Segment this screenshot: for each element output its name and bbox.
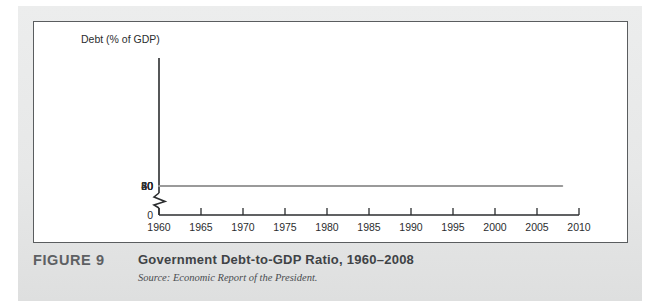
y-axis-labels: 02030405060: [141, 180, 153, 221]
y-axis-break-symbol: [154, 193, 165, 208]
y-axis-title: Debt (% of GDP): [81, 33, 160, 45]
axis-lines: [154, 58, 579, 215]
x-tick-label-2010: 2010: [567, 221, 591, 233]
figure-caption: FIGURE 9 Government Debt-to-GDP Ratio, 1…: [33, 252, 633, 296]
x-tick-label-1965: 1965: [189, 221, 213, 233]
x-tick-label-2000: 2000: [483, 221, 507, 233]
x-tick-label-1995: 1995: [441, 221, 465, 233]
debt-to-gdp-line-chart: Debt (% of GDP) 02030405060 196019651970…: [34, 22, 627, 242]
chart-panel: Debt (% of GDP) 02030405060 196019651970…: [33, 21, 628, 243]
figure-root: Debt (% of GDP) 02030405060 196019651970…: [0, 0, 670, 307]
y-tick-label-0: 0: [147, 209, 153, 221]
x-tick-label-1980: 1980: [315, 221, 339, 233]
figure-source-note: Source: Economic Report of the President…: [138, 272, 317, 283]
x-tick-label-1975: 1975: [273, 221, 297, 233]
y-tick-label-60: 60: [141, 180, 153, 192]
figure-number-label: FIGURE 9: [33, 252, 105, 268]
x-axis-labels: 1960196519701975198019851990199520002005…: [147, 221, 591, 233]
x-tick-label-1960: 1960: [147, 221, 171, 233]
x-axis-ticks: [159, 208, 579, 215]
x-tick-label-2005: 2005: [525, 221, 549, 233]
x-tick-label-1970: 1970: [231, 221, 255, 233]
x-tick-label-1990: 1990: [399, 221, 423, 233]
x-tick-label-1985: 1985: [357, 221, 381, 233]
figure-title: Government Debt-to-GDP Ratio, 1960–2008: [138, 252, 414, 267]
